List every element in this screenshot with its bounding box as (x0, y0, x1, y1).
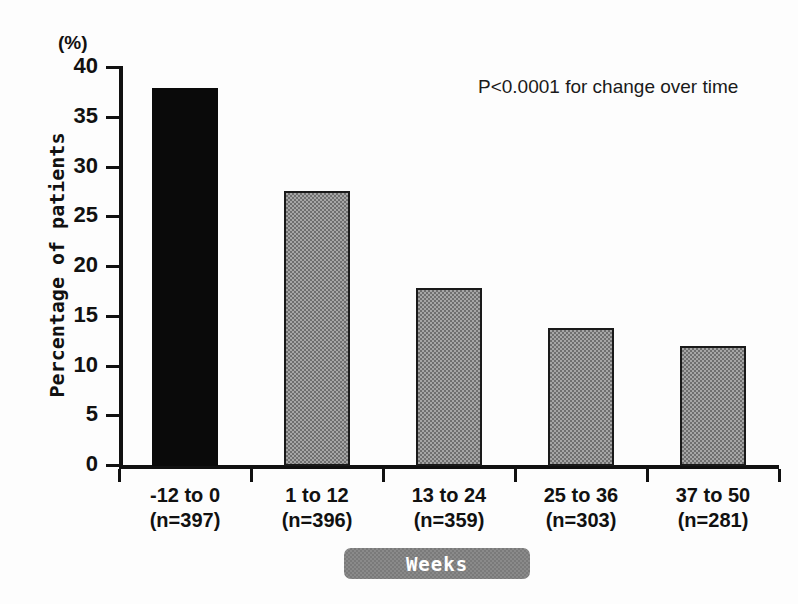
plot-area: 0510152025303540 (119, 68, 779, 466)
bar (680, 346, 746, 466)
x-tick (382, 469, 385, 482)
y-tick: 35 (106, 116, 119, 119)
x-category-range: 13 to 24 (412, 484, 486, 506)
y-tick: 25 (106, 215, 119, 218)
y-tick-label: 10 (74, 352, 98, 378)
y-tick: 0 (106, 464, 119, 467)
y-tick-label: 30 (74, 153, 98, 179)
x-category-range: 25 to 36 (544, 484, 618, 506)
y-tick-label: 5 (86, 401, 98, 427)
x-tick (778, 469, 781, 482)
y-tick: 10 (106, 365, 119, 368)
bar (416, 288, 482, 466)
x-axis-title-badge: Weeks (344, 548, 530, 579)
y-tick-label: 20 (74, 252, 98, 278)
x-tick (514, 469, 517, 482)
y-tick-label: 40 (74, 53, 98, 79)
y-tick-label: 15 (74, 302, 98, 328)
y-tick: 5 (106, 414, 119, 417)
x-category-range: 1 to 12 (285, 484, 348, 506)
y-axis-title: Percentage of patients (45, 120, 69, 410)
bar (548, 328, 614, 466)
y-tick: 20 (106, 265, 119, 268)
y-tick-label: 25 (74, 202, 98, 228)
y-tick-label: 0 (86, 451, 98, 477)
x-tick (118, 469, 121, 482)
y-tick: 15 (106, 315, 119, 318)
bar-chart-figure: (%) Percentage of patients P<0.0001 for … (0, 0, 798, 604)
y-axis-unit-label: (%) (58, 32, 88, 54)
x-tick (646, 469, 649, 482)
y-axis-line (119, 66, 123, 466)
x-category-range: -12 to 0 (150, 484, 220, 506)
x-axis-title-label: Weeks (406, 553, 468, 575)
x-category-count: (n=281) (623, 508, 798, 533)
y-tick-label: 35 (74, 103, 98, 129)
x-category-label: 37 to 50(n=281) (623, 483, 798, 533)
bar (284, 191, 350, 466)
x-category-range: 37 to 50 (676, 484, 750, 506)
bar (152, 88, 218, 466)
y-tick: 40 (106, 66, 119, 69)
y-tick: 30 (106, 166, 119, 169)
x-tick (250, 469, 253, 482)
